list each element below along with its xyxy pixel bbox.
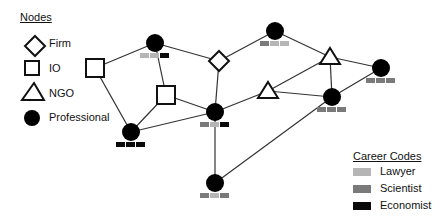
- professional-node: [146, 34, 164, 52]
- career-legend-title: Career Codes: [353, 150, 421, 162]
- career-bar-scientist: [220, 193, 229, 198]
- firm-node: [209, 51, 229, 71]
- career-bar-lawyer: [270, 41, 279, 46]
- legend-label-ngo: NGO: [49, 87, 74, 99]
- career-bar-lawyer: [140, 53, 149, 58]
- swatch-economist: [353, 202, 371, 210]
- nodes: [86, 22, 395, 198]
- career-bar-scientist: [337, 107, 346, 112]
- nodes-legend-title: Nodes: [20, 11, 52, 23]
- career-bar-scientist: [366, 78, 375, 83]
- career-bar-economist: [126, 142, 135, 147]
- career-bar-economist: [136, 142, 145, 147]
- legend-career-swatches: [353, 168, 371, 210]
- swatch-lawyer: [353, 168, 371, 176]
- career-bar-scientist: [317, 107, 326, 112]
- career-bar-scientist: [200, 122, 209, 127]
- edge: [215, 97, 332, 183]
- legend-label-professional: Professional: [49, 111, 110, 123]
- career-bar-scientist: [376, 78, 385, 83]
- io-node: [157, 86, 175, 104]
- career-bar-scientist: [386, 78, 395, 83]
- career-bar-lawyer: [280, 41, 289, 46]
- triangle-icon: [22, 83, 44, 100]
- professional-node: [266, 22, 284, 40]
- legend-label-io: IO: [49, 62, 61, 74]
- swatch-scientist: [353, 185, 371, 193]
- legend-label-lawyer: Lawyer: [380, 165, 415, 177]
- legend-node-shapes: [22, 36, 45, 126]
- edge: [155, 43, 219, 61]
- legend-label-economist: Economist: [380, 199, 431, 211]
- legend-label-scientist: Scientist: [380, 182, 422, 194]
- career-bar-economist: [160, 53, 169, 58]
- career-bar-scientist: [200, 193, 209, 198]
- ngo-node: [258, 82, 278, 98]
- square-icon: [25, 61, 39, 75]
- circle-icon: [24, 110, 40, 126]
- career-bar-economist: [116, 142, 125, 147]
- diamond-icon: [25, 36, 45, 56]
- io-node: [86, 59, 104, 77]
- legend-label-firm: Firm: [49, 37, 71, 49]
- professional-node: [323, 88, 341, 106]
- professional-node: [206, 103, 224, 121]
- career-bar-scientist: [260, 41, 269, 46]
- career-bar-lawyer: [210, 122, 219, 127]
- career-bar-scientist: [327, 107, 336, 112]
- professional-node: [372, 59, 390, 77]
- professional-node: [206, 174, 224, 192]
- career-bar-economist: [220, 122, 229, 127]
- career-bar-lawyer: [210, 193, 219, 198]
- ngo-node: [320, 48, 340, 64]
- career-bar-lawyer: [150, 53, 159, 58]
- professional-node: [122, 123, 140, 141]
